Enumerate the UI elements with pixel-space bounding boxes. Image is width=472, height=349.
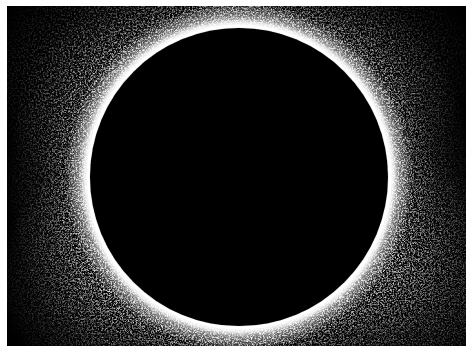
eclipse-photo: Total solar eclipse: black lunar disk su… [7,6,466,346]
eclipse-scene [7,6,466,346]
moon-disk [90,28,388,326]
